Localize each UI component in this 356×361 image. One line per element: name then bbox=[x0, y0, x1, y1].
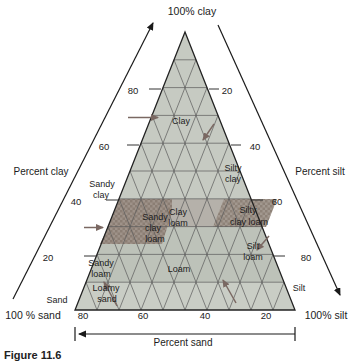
bottom-tick-60: 60 bbox=[138, 310, 149, 321]
right-tick-60: 60 bbox=[272, 196, 283, 207]
corner-label-sand: 100 % sand bbox=[5, 309, 61, 321]
region-label-silt-loam-2: loam bbox=[243, 252, 263, 262]
axis-label-percent-silt: Percent silt bbox=[295, 166, 345, 177]
region-label-loam: Loam bbox=[168, 264, 191, 274]
bottom-tick-80: 80 bbox=[78, 310, 89, 321]
bottom-tick-20: 20 bbox=[261, 310, 272, 321]
region-label-sandy-clay-loam-2: clay bbox=[145, 223, 162, 233]
region-label-loamy-sand-2: sand bbox=[97, 294, 117, 304]
region-label-sand: Sand bbox=[46, 295, 67, 305]
region-label-loamy-sand-1: Loamy bbox=[92, 283, 120, 293]
right-tick-20: 20 bbox=[222, 85, 233, 96]
region-label-sandy-clay-2: clay bbox=[93, 190, 110, 200]
right-tick-40: 40 bbox=[250, 141, 261, 152]
region-label-clay: Clay bbox=[172, 116, 191, 126]
corner-label-silt: 100% silt bbox=[305, 309, 348, 321]
region-label-silty-clay-loam-2: clay loam bbox=[230, 217, 268, 227]
region-label-silty-clay-1: Silty bbox=[224, 163, 242, 173]
region-label-silt-loam-1: Silt bbox=[247, 241, 260, 251]
left-tick-60: 60 bbox=[99, 141, 110, 152]
left-tick-40: 40 bbox=[71, 196, 82, 207]
region-label-sandy-clay-loam-1: Sandy bbox=[142, 212, 168, 222]
figure-caption: Figure 11.6 bbox=[4, 349, 61, 361]
bottom-tick-40: 40 bbox=[200, 310, 211, 321]
axis-label-percent-clay: Percent clay bbox=[13, 166, 68, 177]
region-label-silty-clay-loam-1: Silty bbox=[239, 205, 257, 215]
right-tick-80: 80 bbox=[301, 252, 312, 263]
region-label-clay-loam-2: loam bbox=[168, 218, 188, 228]
axis-label-percent-sand: Percent sand bbox=[154, 337, 213, 348]
region-label-sandy-clay-loam-3: loam bbox=[145, 234, 165, 244]
left-tick-20: 20 bbox=[43, 252, 54, 263]
region-label-sandy-loam-2: loam bbox=[91, 269, 111, 279]
region-label-silt: Silt bbox=[293, 283, 306, 293]
region-label-clay-loam-1: Clay bbox=[169, 207, 188, 217]
corner-label-clay: 100% clay bbox=[168, 5, 217, 17]
region-label-silty-clay-2: clay bbox=[225, 174, 242, 184]
region-label-sandy-clay-1: Sandy bbox=[89, 179, 115, 189]
region-label-sandy-loam-1: Sandy bbox=[88, 258, 114, 268]
left-tick-80: 80 bbox=[128, 85, 139, 96]
